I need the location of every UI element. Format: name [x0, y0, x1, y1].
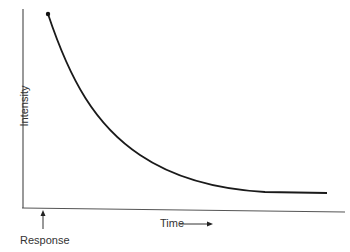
response-arrow-icon — [41, 210, 46, 216]
x-axis-label: Time — [160, 217, 184, 229]
response-annotation: Response — [20, 234, 70, 246]
decay-chart — [0, 0, 350, 252]
decay-curve — [48, 14, 327, 193]
start-point-marker — [46, 12, 50, 16]
x-axis — [22, 208, 345, 212]
time-arrow-icon — [207, 222, 213, 227]
y-axis-label: Intensity — [18, 76, 30, 136]
